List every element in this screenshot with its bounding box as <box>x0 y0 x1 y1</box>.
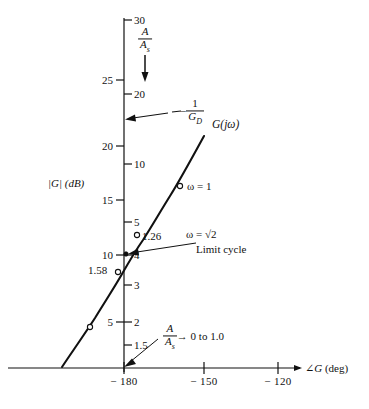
x-axis-label-symbol: ∠G <box>305 362 322 374</box>
curve-marker-1-58 <box>115 269 120 274</box>
y-left-tick-10: 10 <box>102 250 113 261</box>
y-right-tick-5: 5 <box>134 217 140 228</box>
y-right-tick-3: 3 <box>134 280 140 291</box>
amplitude-ratio-denominator: As <box>138 38 152 54</box>
x-tick-minus-120: − 120 <box>264 376 291 387</box>
y-right-tick-10: 10 <box>134 159 145 170</box>
curve-marker-1-26 <box>134 232 139 237</box>
transfer-function-label: G(jω) <box>212 119 239 131</box>
amplitude-ratio-fraction: A As <box>138 26 152 53</box>
limit-cycle-label: Limit cycle <box>196 244 246 255</box>
ratio-direction-arrow <box>142 55 149 82</box>
omega-one-label: ω = 1 <box>187 181 211 192</box>
y-left-tick-25: 25 <box>102 75 113 86</box>
sweep-range-label: 0 to 1.0 <box>191 330 224 342</box>
x-axis-arrowhead <box>294 365 302 371</box>
y-left-tick-5: 5 <box>108 317 114 328</box>
describing-function-numerator: 1 <box>186 98 204 110</box>
x-tick-minus-150: − 150 <box>190 376 217 387</box>
limit-cycle-point <box>124 252 128 256</box>
describing-function-fraction: 1 GD <box>186 98 204 125</box>
y-axis-label-magnitude: |G| (dB) <box>48 177 84 189</box>
omega-sqrt2-label: ω = √2 <box>186 229 216 240</box>
y-left-tick-20: 20 <box>102 141 113 152</box>
y-right-tick-20: 20 <box>134 89 145 100</box>
amplitude-ratio-numerator: A <box>138 26 152 38</box>
value-1-26-label: 1.26 <box>142 231 161 242</box>
y-axis-label: |G| (dB) <box>48 178 84 189</box>
sweep-ratio-fraction: A As <box>163 323 177 350</box>
sweep-note: A As → 0 to 1.0 <box>163 323 224 350</box>
y-right-tick-2: 2 <box>134 317 140 328</box>
y-left-tick-15: 15 <box>102 195 113 206</box>
y-left-tick-marks <box>116 80 124 322</box>
x-axis-label: ∠G (deg) <box>305 363 348 374</box>
describing-function-figure: 25 20 15 10 5 30 20 10 5 4 3 2 1.5 − 180… <box>0 0 369 409</box>
describing-function-pointer <box>125 111 181 122</box>
y-right-tick-marks <box>124 20 132 345</box>
y-right-tick-1-5: 1.5 <box>134 340 148 351</box>
x-tick-minus-180: − 180 <box>110 376 137 387</box>
y-right-tick-4: 4 <box>134 250 140 261</box>
sweep-arrow-icon: → <box>177 330 188 342</box>
describing-function-label: − 1 GD <box>180 98 204 125</box>
y-right-tick-30: 30 <box>134 15 145 26</box>
sweep-ratio-numerator: A <box>163 323 177 335</box>
curve-marker-low <box>87 324 92 329</box>
sweep-ratio-denominator: As <box>163 335 177 351</box>
x-axis-label-units: (deg) <box>325 362 348 374</box>
amplitude-ratio-label: A As <box>138 26 152 53</box>
describing-function-denominator: GD <box>186 110 204 126</box>
curve-marker-omega-1 <box>177 183 182 188</box>
value-1-58-label: 1.58 <box>88 265 107 276</box>
